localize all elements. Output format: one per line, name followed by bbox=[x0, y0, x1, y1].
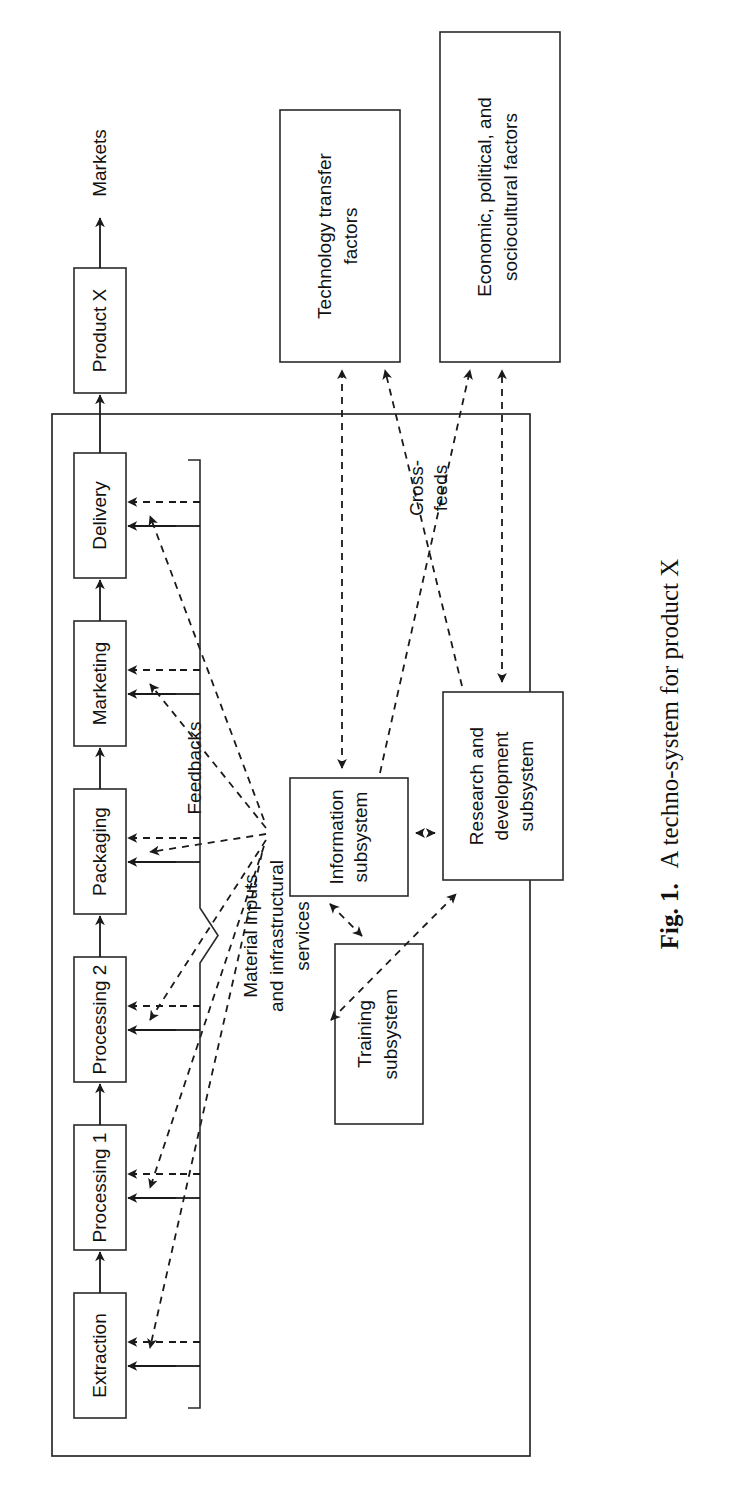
diagram-stage: Extraction Processing 1 Processing 2 Pac… bbox=[0, 0, 730, 1508]
figure-page: Extraction Processing 1 Processing 2 Pac… bbox=[0, 0, 730, 1508]
output-box-label: Product X bbox=[89, 288, 110, 372]
external-box-economic-political[interactable]: Economic, political, and sociocultural f… bbox=[440, 32, 560, 362]
process-step-label: Marketing bbox=[89, 642, 110, 725]
subsystem-label-line-1: Information bbox=[326, 789, 347, 884]
process-step-packaging[interactable]: Packaging bbox=[74, 789, 126, 914]
material-inputs-line-2: and infrastructural bbox=[266, 860, 287, 1012]
process-step-extraction[interactable]: Extraction bbox=[74, 1293, 126, 1418]
external-box-label-line-1: Economic, political, and bbox=[474, 97, 495, 297]
material-inputs-line-1: Material inputs bbox=[240, 874, 261, 998]
subsystem-label-line-1: Training bbox=[354, 1000, 375, 1068]
subsystem-research-development[interactable]: Research and development subsystem bbox=[443, 692, 563, 880]
subsystem-label-line-2: subsystem bbox=[350, 792, 371, 883]
techno-system-diagram: Extraction Processing 1 Processing 2 Pac… bbox=[0, 0, 730, 1508]
process-step-processing-2[interactable]: Processing 2 bbox=[74, 957, 126, 1082]
external-box-label-line-2: factors bbox=[340, 207, 361, 264]
feedbacks-label: Feedbacks bbox=[184, 722, 205, 815]
subsystem-label-line-2: development bbox=[491, 731, 512, 841]
external-box-technology-transfer[interactable]: Technology transfer factors bbox=[280, 110, 400, 362]
process-step-label: Extraction bbox=[89, 1313, 110, 1397]
markets-label: Markets bbox=[89, 129, 110, 197]
caption-prefix: Fig. 1. bbox=[656, 883, 683, 949]
process-step-processing-1[interactable]: Processing 1 bbox=[74, 1125, 126, 1250]
process-step-label: Processing 1 bbox=[89, 1133, 110, 1243]
subsystem-label-line-1: Research and bbox=[466, 727, 487, 845]
external-box-label-line-2: sociocultural factors bbox=[500, 113, 521, 281]
external-box-label-line-1: Technology transfer bbox=[314, 152, 335, 318]
output-box-product-x[interactable]: Product X bbox=[74, 268, 126, 393]
process-step-label: Processing 2 bbox=[89, 965, 110, 1075]
process-step-label: Delivery bbox=[89, 481, 110, 550]
figure-caption: Fig. 1. A techno-system for product X bbox=[656, 559, 683, 950]
crossfeeds-label-line-1: Cross- bbox=[406, 460, 427, 516]
process-step-label: Packaging bbox=[89, 807, 110, 896]
crossfeeds-label-line-2: feeds bbox=[430, 465, 451, 511]
subsystem-label-line-2: subsystem bbox=[380, 989, 401, 1080]
material-inputs-line-3: services bbox=[292, 901, 313, 971]
subsystem-label-line-3: subsystem bbox=[516, 741, 537, 832]
caption-text-group: Fig. 1. A techno-system for product X bbox=[656, 559, 683, 950]
process-step-delivery[interactable]: Delivery bbox=[74, 453, 126, 578]
process-step-marketing[interactable]: Marketing bbox=[74, 621, 126, 746]
subsystem-information[interactable]: Information subsystem bbox=[290, 778, 408, 896]
caption-body: A techno-system for product X bbox=[656, 559, 683, 869]
